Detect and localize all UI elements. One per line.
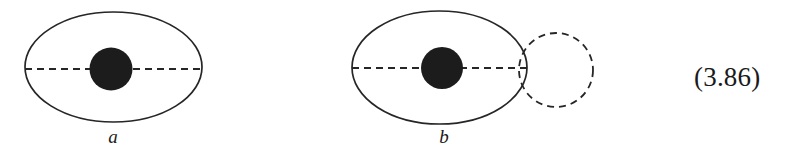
panel-a-group [25, 12, 202, 122]
figure-container: a b (3.86) [0, 0, 796, 160]
panel-a-center-disk [90, 48, 133, 91]
panel-a-label: a [93, 127, 133, 146]
panel-b-label: b [424, 127, 464, 146]
equation-number: (3.86) [694, 62, 760, 93]
panel-b-dashed-circle [519, 33, 593, 107]
panel-b-group [352, 11, 593, 124]
panel-b-center-disk [421, 47, 463, 89]
